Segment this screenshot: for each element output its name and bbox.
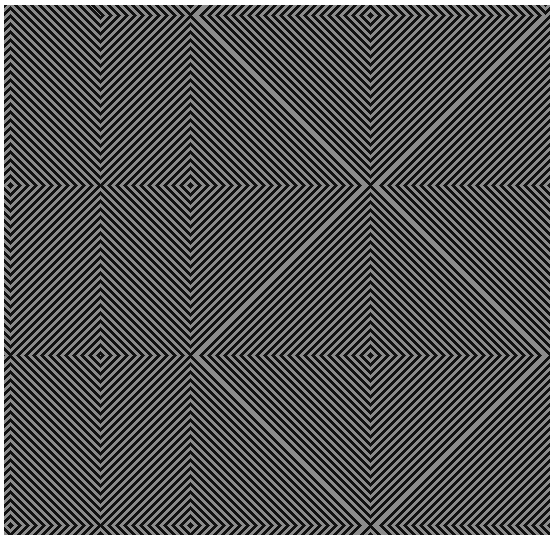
- op-art-pattern: [4, 5, 550, 535]
- diamond-pattern: [4, 5, 550, 535]
- artwork-frame: [0, 0, 554, 550]
